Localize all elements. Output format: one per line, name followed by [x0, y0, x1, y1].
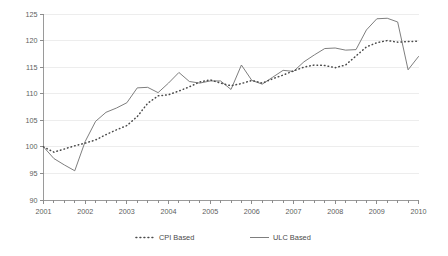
legend-label: CPI Based — [159, 233, 194, 242]
line-chart: 9095100105110115120125 20012002200320042… — [0, 0, 448, 256]
x-tick-label: 2008 — [327, 207, 343, 216]
x-tick-label: 2001 — [36, 207, 52, 216]
x-tick-label: 2004 — [161, 207, 177, 216]
y-tick-label: 95 — [30, 169, 38, 178]
y-tick-label: 110 — [26, 89, 37, 98]
x-tick-label: 2002 — [77, 207, 93, 216]
x-tick-label: 2005 — [202, 207, 218, 216]
chart-canvas: 9095100105110115120125 20012002200320042… — [0, 0, 448, 256]
y-tick-label: 125 — [26, 10, 38, 19]
y-tick-labels: 9095100105110115120125 — [26, 10, 38, 205]
x-tick-label: 2010 — [411, 207, 427, 216]
x-tick-labels: 2001200220032004200520062007200820092010 — [36, 207, 427, 216]
x-tick-label: 2009 — [369, 207, 385, 216]
x-tick-label: 2003 — [119, 207, 135, 216]
y-axis — [40, 14, 44, 200]
series-ulc-based — [44, 18, 419, 171]
series-cpi-based — [44, 41, 419, 153]
legend-item-ulc-based: ULC Based — [250, 233, 311, 242]
y-tick-label: 90 — [30, 196, 38, 205]
line-ulc-based — [44, 18, 419, 171]
chart-legend: CPI BasedULC Based — [136, 233, 311, 242]
legend-label: ULC Based — [273, 233, 311, 242]
x-tick-label: 2006 — [244, 207, 260, 216]
y-tick-label: 105 — [26, 116, 38, 125]
y-tick-label: 115 — [26, 63, 37, 72]
y-tick-label: 100 — [26, 142, 38, 151]
x-axis — [44, 200, 419, 204]
legend-item-cpi-based: CPI Based — [136, 233, 194, 242]
x-tick-label: 2007 — [286, 207, 302, 216]
y-tick-label: 120 — [26, 36, 38, 45]
line-cpi-based — [44, 41, 419, 153]
